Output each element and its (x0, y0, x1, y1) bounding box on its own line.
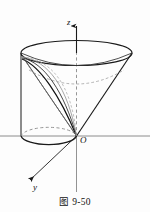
y-axis-label: y (33, 183, 37, 192)
figure-container: z y O 图 9-50 (0, 0, 150, 212)
origin-label: O (80, 136, 87, 145)
z-axis-label: z (67, 18, 70, 27)
cylinder-base-ellipse-back (21, 127, 77, 136)
y-axis (30, 136, 77, 180)
figure-caption: 图 9-50 (0, 194, 150, 208)
geometry-diagram (0, 0, 150, 212)
